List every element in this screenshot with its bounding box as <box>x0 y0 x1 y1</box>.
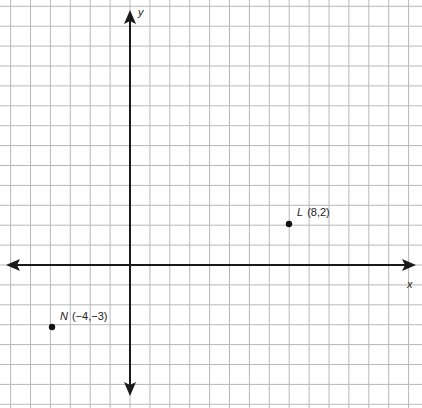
point-n-name: N <box>60 310 68 322</box>
coordinate-plane: x y L(8,2) N(−4,−3) <box>0 0 422 408</box>
x-axis-label: x <box>406 278 413 290</box>
point-l-coords: (8,2) <box>307 206 330 218</box>
point-l-marker <box>286 221 292 227</box>
point-l-label: L(8,2) <box>297 206 330 218</box>
point-l-name: L <box>297 206 303 218</box>
point-n-marker <box>49 324 55 330</box>
y-axis-label: y <box>137 6 145 18</box>
grid-lines <box>0 0 422 408</box>
point-n-coords: (−4,−3) <box>72 310 107 322</box>
point-n-label: N(−4,−3) <box>60 310 107 322</box>
